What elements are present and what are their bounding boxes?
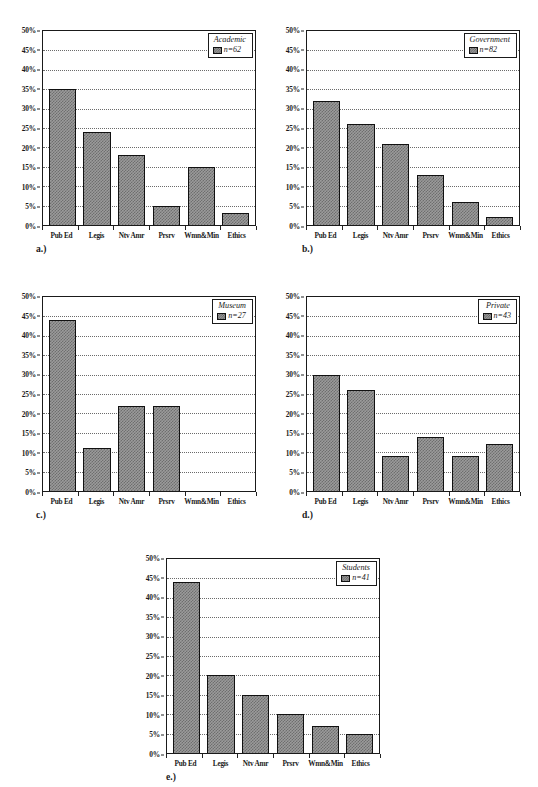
x-axis-tick (449, 492, 450, 496)
bar-slot-legis (204, 559, 239, 753)
bar (49, 320, 76, 491)
x-axis-tick-label: Ntv Amr (114, 231, 149, 240)
bar-series (43, 297, 255, 491)
x-axis-tick (309, 754, 310, 758)
x-axis-tick-labels: Pub EdLegisNtv AmrPrsrvWmn&MinEthics (166, 759, 380, 768)
plot-area: Privaten=43 (306, 296, 520, 492)
bar (118, 155, 145, 225)
bar-slot-prsrv (149, 297, 184, 491)
x-axis-tick (78, 492, 79, 496)
y-axis-tick-label: 30% (146, 632, 160, 641)
x-axis-tick-label: Legis (343, 497, 378, 506)
x-axis-tick (42, 226, 43, 230)
x-axis-tick-label: Wmn&Min (308, 759, 343, 768)
x-axis-tick-label: Ntv Amr (378, 231, 413, 240)
y-axis-tick-label: 5% (289, 468, 300, 477)
y-axis-tick-label: 15% (146, 691, 160, 700)
bar-slot-ntv-amr (114, 31, 149, 225)
x-axis-tick-label: Ethics (219, 497, 254, 506)
bar-slot-wmn-min (184, 31, 219, 225)
bar-slot-ethics (482, 297, 517, 491)
x-axis-tick-label: Ntv Amr (238, 759, 273, 768)
legend-swatch-icon (469, 47, 478, 54)
legend-title: Academic (213, 35, 247, 44)
x-axis-tick-label: Prsrv (413, 231, 448, 240)
y-axis-tick-label: 10% (286, 182, 300, 191)
y-axis-tick-label: 5% (289, 202, 300, 211)
x-axis-tick (220, 226, 221, 230)
x-axis-tick (185, 226, 186, 230)
x-axis-tick (42, 492, 43, 496)
y-axis-tick-label: 5% (149, 730, 160, 739)
plot-area: Museumn=27 (42, 296, 256, 492)
y-axis-tick-labels: 0%5%10%15%20%25%30%35%40%45%50% (132, 558, 164, 754)
legend-swatch-icon (217, 313, 226, 320)
legend-entry: n=27 (217, 311, 247, 320)
bar-series (307, 31, 519, 225)
y-axis-tick-label: 10% (286, 448, 300, 457)
y-axis-tick-label: 20% (22, 409, 36, 418)
x-axis-tick (342, 226, 343, 230)
x-axis-tick (202, 754, 203, 758)
chart-panel-government: 0%5%10%15%20%25%30%35%40%45%50%Governmen… (272, 12, 530, 262)
y-axis-tick-label: 50% (286, 292, 300, 301)
legend-entry: n=62 (213, 45, 247, 54)
x-axis-tick (273, 754, 274, 758)
y-axis-tick-label: 15% (286, 163, 300, 172)
y-axis-tick-label: 35% (22, 350, 36, 359)
x-axis-tick-label: Wmn&Min (448, 497, 483, 506)
panel-label: c.) (36, 509, 46, 520)
bar (222, 213, 249, 225)
bar-slot-pub-ed (309, 297, 344, 491)
legend-series-label: n=62 (224, 45, 241, 54)
y-axis-tick-label: 50% (146, 554, 160, 563)
legend-swatch-icon (213, 47, 222, 54)
x-axis-tick-label: Ethics (343, 759, 378, 768)
x-axis-tick (413, 492, 414, 496)
bar (313, 101, 340, 225)
bar-series (307, 297, 519, 491)
x-axis-tick-label: Ethics (483, 497, 518, 506)
bar (188, 167, 215, 225)
y-axis-tick-label: 40% (286, 331, 300, 340)
bar-slot-wmn-min (448, 31, 483, 225)
x-axis-tick (306, 492, 307, 496)
x-axis-tick-label: Pub Ed (168, 759, 203, 768)
chart-legend: Studentsn=41 (336, 561, 377, 586)
x-axis-tick (377, 492, 378, 496)
x-axis-tick-label: Legis (203, 759, 238, 768)
legend-title: Government (469, 35, 511, 44)
bar-slot-ntv-amr (114, 297, 149, 491)
x-axis-tick (484, 492, 485, 496)
bar-slot-ntv-amr (378, 297, 413, 491)
x-axis-tick (256, 226, 257, 230)
legend-title: Private (483, 301, 511, 310)
legend-series-label: n=41 (352, 573, 369, 582)
y-axis-tick-label: 10% (22, 182, 36, 191)
bar-slot-ethics (482, 31, 517, 225)
y-axis-tick-label: 20% (22, 143, 36, 152)
bar-slot-wmn-min (308, 559, 343, 753)
y-axis-tick-label: 0% (149, 750, 160, 759)
bar (452, 202, 479, 225)
bar-slot-prsrv (413, 31, 448, 225)
bar-slot-legis (344, 297, 379, 491)
bar (207, 675, 234, 753)
bar-slot-legis (80, 297, 115, 491)
panel-label: b.) (302, 243, 313, 254)
bar (312, 726, 339, 753)
x-axis-tick-labels: Pub EdLegisNtv AmrPrsrvWmn&MinEthics (306, 497, 520, 506)
y-axis-tick-label: 5% (25, 468, 36, 477)
bar (242, 695, 269, 753)
x-axis-tick (113, 492, 114, 496)
bar-slot-wmn-min (448, 297, 483, 491)
chart-legend: Privaten=43 (478, 299, 517, 324)
x-axis-tick (380, 754, 381, 758)
bar-slot-wmn-min (184, 297, 219, 491)
y-axis-tick-label: 40% (22, 331, 36, 340)
legend-title: Students (341, 563, 371, 572)
bar-slot-pub-ed (309, 31, 344, 225)
legend-entry: n=82 (469, 45, 511, 54)
y-axis-tick-label: 45% (286, 45, 300, 54)
y-axis-tick-labels: 0%5%10%15%20%25%30%35%40%45%50% (272, 296, 304, 492)
